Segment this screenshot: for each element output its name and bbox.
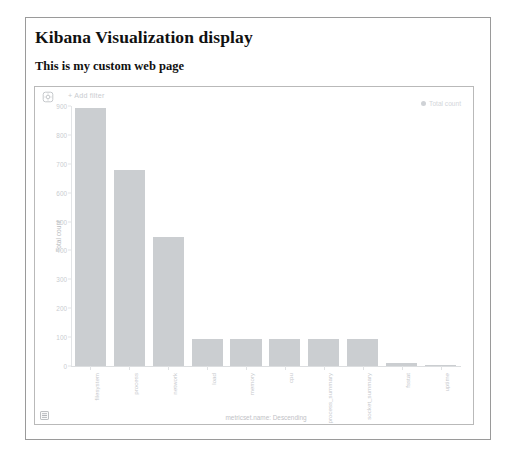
page-frame: Kibana Visualization display This is my …	[25, 17, 491, 440]
bar-process_summary[interactable]	[308, 339, 339, 366]
y-axis-tick-label: 300	[56, 276, 67, 283]
x-axis-tick-label-process[interactable]: process	[132, 373, 139, 395]
bar-socket_summary[interactable]	[347, 339, 378, 366]
bar-load[interactable]	[192, 339, 223, 366]
y-axis-tick-label: 700	[56, 160, 67, 167]
y-axis-tick-mark	[68, 279, 71, 280]
y-axis-tick-label: 600	[56, 189, 67, 196]
page-subtitle: This is my custom web page	[35, 59, 184, 74]
x-axis-tick-mark	[285, 366, 286, 370]
y-axis-tick-label: 400	[56, 247, 67, 254]
plot-area: 0100200300400500600700800900	[71, 106, 460, 366]
y-axis-tick-label: 800	[56, 131, 67, 138]
y-axis-tick-mark	[68, 192, 71, 193]
x-axis-tick-mark	[129, 366, 130, 370]
y-axis-tick-label: 900	[56, 103, 67, 110]
bar-cpu[interactable]	[269, 339, 300, 366]
x-axis-tick-label-fsstat[interactable]: fsstat	[404, 373, 411, 388]
x-axis-tick-mark	[207, 366, 208, 370]
x-axis-tick-mark	[363, 366, 364, 370]
x-axis-tick-mark	[402, 366, 403, 370]
x-axis-tick-label-network[interactable]: network	[171, 373, 178, 395]
x-axis-tick-label-load[interactable]: load	[210, 373, 217, 385]
x-axis-tick-mark	[324, 366, 325, 370]
x-axis-tick-label-filesystem[interactable]: filesystem	[93, 373, 100, 401]
x-axis-tick-mark	[168, 366, 169, 370]
y-axis-tick-mark	[68, 308, 71, 309]
y-axis-tick-mark	[68, 337, 71, 338]
y-axis-tick-mark	[68, 106, 71, 107]
y-axis-tick-label: 0	[63, 363, 67, 370]
bar-memory[interactable]	[230, 339, 261, 366]
bar-filesystem[interactable]	[75, 108, 106, 366]
x-axis-tick-label-process_summary[interactable]: process_summary	[326, 373, 333, 424]
y-axis-tick-mark	[68, 134, 71, 135]
y-axis-tick-label: 500	[56, 218, 67, 225]
x-axis-tick-mark	[441, 366, 442, 370]
bar-network[interactable]	[153, 237, 184, 366]
x-axis-title: metricset.name: Descending	[71, 414, 461, 421]
bar-process[interactable]	[114, 170, 145, 366]
y-axis-tick-mark	[68, 250, 71, 251]
x-axis-tick-mark	[90, 366, 91, 370]
y-axis-tick-label: 200	[56, 305, 67, 312]
y-axis-tick-label: 100	[56, 334, 67, 341]
x-axis-tick-label-uptime[interactable]: uptime	[443, 373, 450, 392]
y-axis-tick-mark	[68, 221, 71, 222]
y-axis-tick-mark	[68, 366, 71, 367]
x-axis-tick-label-socket_summary[interactable]: socket_summary	[365, 373, 372, 420]
y-axis-tick-mark	[68, 163, 71, 164]
x-axis-tick-label-memory[interactable]: memory	[248, 373, 255, 395]
panel-grid-icon[interactable]	[40, 411, 49, 420]
x-axis-tick-label-cpu[interactable]: cpu	[287, 373, 294, 383]
x-axis-tick-mark	[246, 366, 247, 370]
visualization-panel: + Add filter Total count Total count 010…	[34, 86, 474, 425]
bar-chart: Total count 0100200300400500600700800900…	[35, 87, 473, 424]
page-title: Kibana Visualization display	[35, 27, 253, 48]
